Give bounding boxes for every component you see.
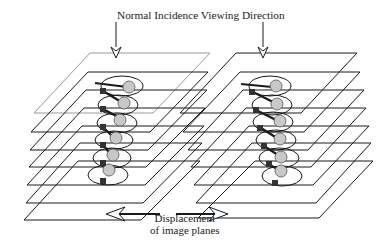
- right-atom-1: [270, 80, 282, 92]
- right-square-3: [257, 125, 263, 131]
- displacement-label: Displacement of image planes: [150, 212, 220, 236]
- left-square-6: [100, 178, 106, 184]
- left-atom-3: [114, 114, 126, 126]
- right-square-5: [266, 161, 272, 167]
- right-square-2: [253, 107, 259, 113]
- left-square-4: [100, 142, 106, 148]
- right-square-4: [261, 143, 267, 149]
- right-helix: [241, 76, 302, 186]
- right-atom-6: [275, 165, 287, 177]
- left-square-2: [100, 106, 106, 112]
- left-square-3: [100, 124, 106, 130]
- left-helix: [88, 76, 143, 185]
- displacement-label-line1: Displacement: [150, 212, 220, 224]
- right-square-6: [272, 180, 278, 186]
- right-atom-4: [274, 133, 286, 145]
- right-atom-2: [271, 98, 283, 110]
- left-square-5: [100, 160, 106, 166]
- right-atom-5: [275, 151, 287, 163]
- left-atom-1: [123, 81, 135, 93]
- right-square-1: [249, 89, 255, 95]
- left-square-1: [100, 88, 106, 94]
- right-atom-3: [274, 115, 286, 127]
- displacement-label-line2: of image planes: [150, 224, 220, 236]
- image-plane-diagram: [0, 0, 390, 248]
- left-atom-5: [107, 149, 119, 161]
- left-atom-4: [110, 132, 122, 144]
- diagram-title: Normal Incidence Viewing Direction: [117, 9, 285, 21]
- left-atom-2: [118, 97, 130, 109]
